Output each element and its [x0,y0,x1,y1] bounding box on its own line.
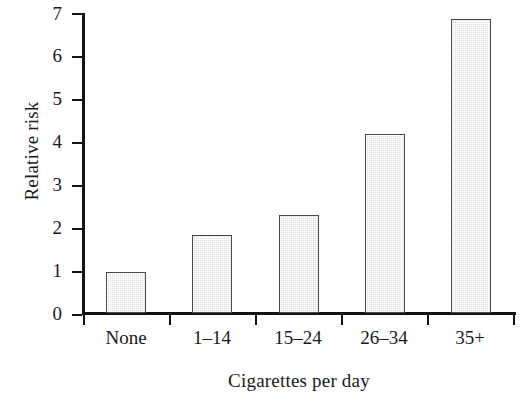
y-tick-label-7: 7 [28,4,62,23]
y-tick-mark-2 [72,228,82,230]
y-tick-label-5: 5 [28,89,62,108]
x-tick-mark-2 [255,315,257,325]
x-category-label-none: None [83,328,169,349]
y-tick-mark-6 [72,56,82,58]
x-tick-mark-5 [513,315,515,325]
y-tick-label-6: 6 [28,46,62,65]
bar-1-14 [192,235,232,313]
y-tick-mark-4 [72,142,82,144]
x-category-label-15-24: 15–24 [255,328,341,349]
bar-15-24 [279,215,319,313]
y-tick-mark-7 [72,13,82,15]
x-category-label-35plus: 35+ [427,328,513,349]
y-axis-line [82,13,85,315]
y-tick-mark-3 [72,185,82,187]
x-tick-mark-1 [169,315,171,325]
bar-35plus [451,19,491,313]
y-tick-label-3: 3 [28,175,62,194]
x-tick-mark-0 [83,315,85,325]
y-tick-mark-1 [72,271,82,273]
y-tick-mark-5 [72,99,82,101]
x-category-label-1-14: 1–14 [169,328,255,349]
y-axis-title: Relative risk [21,61,43,241]
bar-none [106,272,146,313]
y-tick-label-1: 1 [28,261,62,280]
x-axis-title: Cigarettes per day [82,370,516,392]
x-category-label-26-34: 26–34 [341,328,427,349]
x-tick-mark-4 [427,315,429,325]
bar-26-34 [365,134,405,313]
x-tick-mark-3 [341,315,343,325]
y-tick-label-4: 4 [28,132,62,151]
y-tick-mark-0 [72,314,82,316]
y-tick-label-0: 0 [28,304,62,323]
y-tick-label-2: 2 [28,218,62,237]
bar-chart: Relative risk 0 1 2 3 4 5 6 7 None 1–14 … [0,0,523,410]
